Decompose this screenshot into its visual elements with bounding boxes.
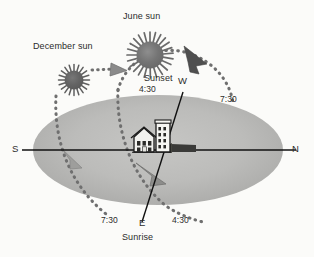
december-sun-direction-arrow — [92, 63, 127, 76]
label-sunrise-time-june: 4:30 — [172, 216, 189, 225]
label-east: E — [139, 218, 145, 228]
label-sunrise-time-december: 7:30 — [101, 216, 118, 225]
diagram-canvas — [0, 0, 314, 257]
sun-path-diagram: June sun December sun Sunset 4:30 7:30 W… — [0, 0, 314, 257]
label-sunset-time-december: 4:30 — [139, 85, 156, 94]
june-path-arrowhead — [184, 46, 207, 74]
june-sun-icon — [127, 32, 173, 78]
label-sunrise: Sunrise — [122, 233, 153, 242]
label-june-sun: June sun — [123, 12, 160, 21]
label-sunset: Sunset — [144, 74, 173, 83]
label-sunset-time-june: 7:30 — [220, 95, 237, 104]
label-west: W — [178, 76, 187, 86]
label-north: N — [292, 144, 299, 154]
label-south: S — [12, 144, 18, 154]
december-sun-icon — [59, 65, 90, 96]
label-december-sun: December sun — [33, 42, 93, 51]
